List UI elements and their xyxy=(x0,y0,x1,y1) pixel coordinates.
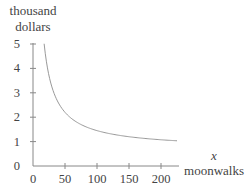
x-tick-label: 200 xyxy=(152,172,171,186)
x-tick-label: 100 xyxy=(88,172,107,186)
axes: 050100150200012345 xyxy=(14,37,179,186)
y-tick-label: 1 xyxy=(14,135,20,149)
y-axis-label-line1: thousand xyxy=(10,3,57,18)
x-tick-label: 150 xyxy=(120,172,139,186)
chart: 050100150200012345 thousand dollars x mo… xyxy=(0,0,250,195)
y-tick-label: 2 xyxy=(14,110,20,124)
data-curve xyxy=(44,44,177,141)
y-tick-label: 5 xyxy=(14,37,20,51)
x-axis-label-line2: moonwalks xyxy=(184,163,244,178)
y-axis-label-line2: dollars xyxy=(15,19,50,34)
y-tick-label: 4 xyxy=(14,61,21,75)
x-axis-label-line1: x xyxy=(210,148,217,163)
y-tick-label: 0 xyxy=(14,159,20,173)
x-tick-label: 50 xyxy=(59,172,72,186)
x-tick-label: 0 xyxy=(30,172,36,186)
y-tick-label: 3 xyxy=(14,86,20,100)
